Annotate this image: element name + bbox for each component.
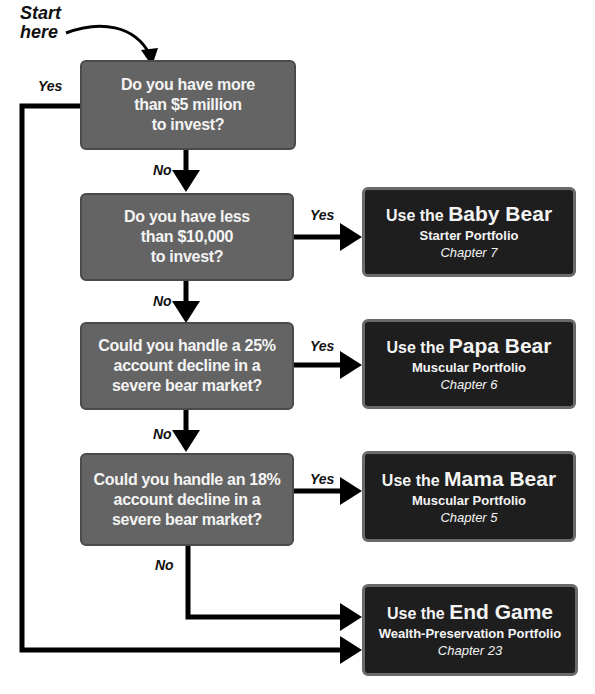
start-label-line2: here xyxy=(20,23,61,42)
result-box-end-game: Use the End Game Wealth-Preservation Por… xyxy=(362,584,578,676)
result-box-mama-bear: Use the Mama Bear Muscular Portfolio Cha… xyxy=(362,451,576,542)
yes-label-q2: Yes xyxy=(310,207,334,223)
result-box-baby-bear: Use the Baby Bear Starter Portfolio Chap… xyxy=(362,187,576,277)
question-box-more-than-5-million: Do you have morethan $5 millionto invest… xyxy=(80,60,296,150)
start-label: Start here xyxy=(20,4,61,42)
no-label-q4: No xyxy=(155,557,174,573)
yes-label-q1: Yes xyxy=(38,78,62,94)
question-box-less-than-10000: Do you have lessthan $10,000to invest? xyxy=(80,193,294,281)
question-box-25-percent-decline: Could you handle a 25%account decline in… xyxy=(80,322,294,410)
yes-label-q3: Yes xyxy=(310,338,334,354)
question-box-18-percent-decline: Could you handle an 18%account decline i… xyxy=(80,453,294,546)
no-label-q3: No xyxy=(153,426,172,442)
result-box-papa-bear: Use the Papa Bear Muscular Portfolio Cha… xyxy=(362,319,576,409)
start-label-line1: Start xyxy=(20,4,61,23)
no-label-q1: No xyxy=(153,162,172,178)
yes-label-q4: Yes xyxy=(310,471,334,487)
no-label-q2: No xyxy=(153,293,172,309)
